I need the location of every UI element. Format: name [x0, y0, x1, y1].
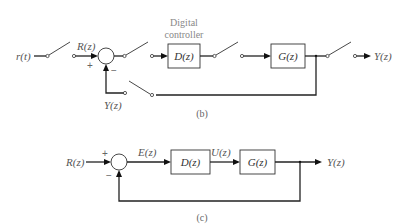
sum-minus-sign: −: [111, 65, 117, 76]
sampler3-contact-a: [213, 54, 216, 57]
arrow-to-d-c-icon: [164, 159, 171, 165]
arrow-to-sum-icon: [91, 53, 98, 59]
sampler4-contact-b: [353, 54, 356, 57]
output-yz-c-label: Y(z): [327, 156, 345, 169]
sum-minus-sign-c: −: [106, 170, 112, 181]
controller-title-line1: Digital: [170, 17, 198, 28]
sampler2-contact-a: [123, 54, 126, 57]
feedback-yz-label: Y(z): [104, 99, 122, 112]
diagram-b: r(t) R(z) + − Digital controller D(z): [16, 17, 392, 120]
sampler1-contact-a: [46, 54, 49, 57]
arrow-to-g-icon: [264, 53, 271, 59]
sampler4-switch-blade: [329, 42, 351, 55]
sampler1-contact-b: [72, 54, 75, 57]
output-yz-label: Y(z): [374, 50, 392, 63]
input-rt-label: r(t): [16, 50, 31, 63]
controller-block-label: D(z): [173, 50, 194, 63]
plant-block-c-label: G(z): [248, 156, 268, 169]
arrow-feedback-c-icon: [116, 170, 122, 177]
sampler2-switch-blade: [126, 42, 148, 55]
caption-c: (c): [196, 212, 207, 224]
controller-block-c-label: D(z): [180, 156, 201, 169]
controller-title-line2: controller: [165, 29, 205, 40]
sampler3-switch-blade: [216, 42, 238, 55]
sampler3-contact-b: [240, 54, 243, 57]
summing-junction-b: [98, 48, 114, 64]
block-diagrams: r(t) R(z) + − Digital controller D(z): [0, 0, 404, 224]
sampler5-contact-a: [150, 93, 153, 96]
rz-label: R(z): [76, 40, 96, 53]
input-rz-label: R(z): [65, 156, 85, 169]
sampler5-contact-b: [123, 91, 126, 94]
arrow-output-c-icon: [315, 159, 322, 165]
error-ez-label: E(z): [137, 146, 157, 159]
sum-plus-sign: +: [87, 60, 93, 71]
summing-junction-c: [111, 154, 127, 170]
arrow-to-g-c-icon: [233, 159, 240, 165]
sampler4-contact-a: [326, 54, 329, 57]
arrow-to-sum-c-icon: [104, 159, 111, 165]
sampler2-contact-b: [150, 54, 153, 57]
arrow-output-icon: [364, 53, 371, 59]
arrow-feedback-icon: [103, 64, 109, 71]
sampler5-switch-blade: [129, 81, 150, 94]
caption-b: (b): [196, 108, 208, 120]
control-uz-label: U(z): [211, 146, 231, 159]
diagram-c: R(z) + − E(z) D(z) U(z) G(z) Y(z) (c): [65, 146, 345, 224]
plant-block-label: G(z): [278, 50, 298, 63]
sampler1-switch-blade: [49, 42, 70, 55]
sum-plus-sign-c: +: [102, 148, 108, 159]
arrow-to-d-icon: [161, 53, 168, 59]
